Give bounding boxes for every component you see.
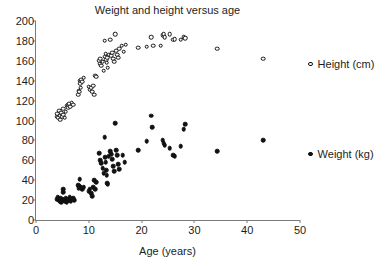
chart-figure: Weight and height versus age 02040608010… xyxy=(0,0,390,267)
data-point-weight xyxy=(78,177,83,182)
data-point-weight xyxy=(173,154,178,159)
data-point-weight xyxy=(182,127,187,132)
data-point-weight xyxy=(104,168,109,173)
data-point-weight xyxy=(104,173,109,178)
data-point-weight xyxy=(136,148,141,153)
data-point-height xyxy=(91,83,96,88)
data-point-weight xyxy=(106,182,111,187)
x-axis-tick-label: 50 xyxy=(294,224,306,236)
data-point-height xyxy=(173,37,178,42)
data-point-weight xyxy=(72,198,77,203)
x-axis-tick-mark xyxy=(300,220,301,223)
data-point-weight xyxy=(93,187,98,192)
filled-circle-marker-icon xyxy=(308,152,313,157)
data-point-height xyxy=(112,59,117,64)
data-point-height xyxy=(121,50,126,55)
data-point-weight xyxy=(102,135,107,140)
data-point-height xyxy=(63,109,68,114)
legend-item-weight: Weight (kg) xyxy=(308,148,374,160)
y-axis-tick-label: 140 xyxy=(16,75,34,87)
y-axis-tick-label: 160 xyxy=(16,55,34,67)
data-point-weight xyxy=(120,153,125,158)
data-point-height xyxy=(81,75,86,80)
data-point-height xyxy=(158,44,163,49)
data-point-height xyxy=(80,79,85,84)
x-axis-label: Age (years) xyxy=(35,245,300,257)
data-points-layer xyxy=(36,21,300,220)
legend-item-height: Height (cm) xyxy=(308,58,374,70)
data-point-weight xyxy=(113,121,118,126)
x-axis-tick-mark xyxy=(194,220,195,223)
data-point-height xyxy=(113,32,118,37)
data-point-weight xyxy=(116,162,121,167)
data-point-height xyxy=(99,63,104,68)
y-axis-tick-label: 20 xyxy=(22,194,34,206)
data-point-height xyxy=(163,35,168,40)
chart-title: Weight and height versus age xyxy=(35,4,300,16)
data-point-height xyxy=(261,57,266,62)
data-point-weight xyxy=(94,180,99,185)
y-axis-tick-label: 80 xyxy=(22,134,34,146)
data-point-weight xyxy=(115,153,120,158)
legend-label-height: Height (cm) xyxy=(318,58,375,70)
data-point-weight xyxy=(145,139,150,144)
x-axis-tick-mark xyxy=(247,220,248,223)
data-point-height xyxy=(108,38,113,43)
data-point-height xyxy=(71,102,76,107)
data-point-weight xyxy=(97,151,102,156)
data-point-weight xyxy=(167,146,172,151)
data-point-weight xyxy=(112,169,117,174)
data-point-weight xyxy=(109,152,114,157)
y-axis-tick-label: 60 xyxy=(22,154,34,166)
data-point-weight xyxy=(261,138,266,143)
data-point-height xyxy=(149,35,154,40)
data-point-height xyxy=(92,92,97,97)
x-axis-tick-label: 30 xyxy=(188,224,200,236)
data-point-weight xyxy=(103,160,108,165)
data-point-weight xyxy=(117,167,122,172)
data-point-weight xyxy=(215,149,220,154)
plot-area: 02040608010012014016018020001020304050 xyxy=(35,21,300,221)
data-point-weight xyxy=(122,160,127,165)
open-circle-marker-icon xyxy=(308,62,313,67)
x-axis-tick-mark xyxy=(36,220,37,223)
y-axis-tick-label: 120 xyxy=(16,95,34,107)
data-point-weight xyxy=(110,157,115,162)
data-point-height xyxy=(183,36,188,41)
data-point-weight xyxy=(111,164,116,169)
data-point-height xyxy=(104,60,109,65)
x-axis-tick-label: 40 xyxy=(241,224,253,236)
data-point-height xyxy=(79,85,84,90)
data-point-height xyxy=(106,65,111,70)
data-point-weight xyxy=(178,144,183,149)
x-axis-tick-mark xyxy=(88,220,89,223)
legend-label-weight: Weight (kg) xyxy=(318,148,374,160)
y-axis-tick-label: 100 xyxy=(16,115,34,127)
data-point-height xyxy=(116,56,121,61)
data-point-weight xyxy=(61,190,66,195)
x-axis-tick-mark xyxy=(141,220,142,223)
data-point-height xyxy=(145,45,150,50)
data-point-height xyxy=(94,74,99,79)
data-point-weight xyxy=(90,194,95,199)
data-point-height xyxy=(77,89,82,94)
data-point-height xyxy=(215,47,220,52)
x-axis-tick-label: 0 xyxy=(33,224,39,236)
data-point-weight xyxy=(150,125,155,130)
y-axis-tick-label: 200 xyxy=(16,15,34,27)
data-point-height xyxy=(102,39,107,44)
x-axis-tick-label: 10 xyxy=(83,224,95,236)
data-point-weight xyxy=(114,148,119,153)
data-point-weight xyxy=(149,113,154,118)
data-point-height xyxy=(167,32,172,37)
y-axis-tick-label: 180 xyxy=(16,35,34,47)
data-point-height xyxy=(62,115,67,120)
data-point-height xyxy=(151,44,156,49)
data-point-height xyxy=(123,43,128,48)
y-axis-tick-label: 40 xyxy=(22,174,34,186)
data-point-weight xyxy=(183,122,188,127)
x-axis-tick-label: 20 xyxy=(135,224,147,236)
data-point-weight xyxy=(81,185,86,190)
data-point-height xyxy=(136,46,141,51)
